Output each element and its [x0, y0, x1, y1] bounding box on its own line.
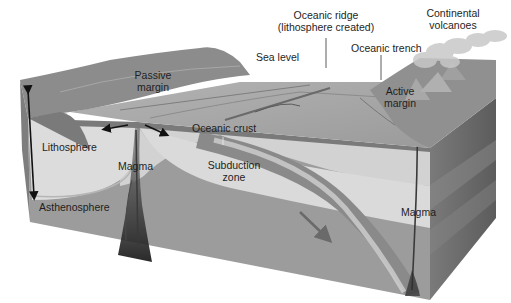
label-passive-margin: Passive margin: [128, 70, 178, 93]
label-oceanic-trench: Oceanic trench: [351, 43, 422, 55]
label-subduction-zone: Subduction zone: [206, 160, 262, 183]
label-asthenosphere: Asthenosphere: [39, 202, 110, 214]
label-magma-volcano: Magma: [401, 207, 436, 219]
label-magma-ridge: Magma: [118, 161, 153, 173]
label-oceanic-ridge: Oceanic ridge (lithosphere created): [268, 10, 384, 33]
label-active-margin: Active margin: [380, 86, 420, 109]
label-oceanic-crust: Oceanic crust: [192, 123, 256, 135]
label-sea-level: Sea level: [256, 52, 299, 64]
label-continental-volcanoes: Continental volcanoes: [418, 8, 488, 31]
label-lithosphere: Lithosphere: [42, 142, 97, 154]
